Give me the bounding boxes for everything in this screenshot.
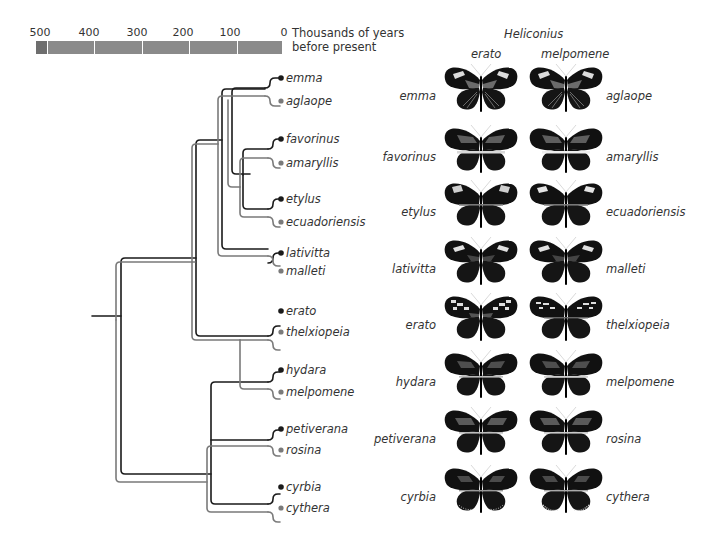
tip-label-aglaope: aglaope bbox=[286, 94, 332, 108]
row-label-left: cyrbia bbox=[356, 490, 436, 504]
row-label-left: emma bbox=[356, 89, 436, 103]
row-label-left: lativitta bbox=[356, 262, 436, 276]
melpomene-lineage bbox=[116, 96, 280, 522]
tip-label-malleti: malleti bbox=[286, 264, 325, 278]
tip-dot bbox=[278, 367, 284, 373]
tip-dot bbox=[278, 219, 283, 224]
row-label-left: erato bbox=[356, 318, 436, 332]
butterfly-erato-cyrbia bbox=[443, 463, 519, 519]
tip-label-cythera: cythera bbox=[286, 501, 330, 515]
row-label-right: rosina bbox=[606, 432, 641, 446]
butterfly-erato-petiverana bbox=[443, 405, 519, 461]
tip-dot bbox=[278, 98, 283, 103]
butterfly-melpomene-amaryllis bbox=[528, 123, 604, 179]
tip-dot bbox=[278, 196, 284, 202]
tip-label-hydara: hydara bbox=[286, 363, 326, 377]
butterfly-melpomene-rosina bbox=[528, 405, 604, 461]
column-header-erato: erato bbox=[471, 47, 501, 61]
tip-dot bbox=[278, 268, 283, 273]
butterfly-melpomene-ecuadoriensis bbox=[528, 178, 604, 234]
row-label-right: aglaope bbox=[606, 89, 652, 103]
butterfly-melpomene-aglaope bbox=[528, 62, 604, 118]
row-label-right: ecuadoriensis bbox=[606, 205, 686, 219]
tip-dot bbox=[278, 484, 284, 490]
row-label-right: cythera bbox=[606, 490, 650, 504]
row-label-right: malleti bbox=[606, 262, 645, 276]
butterfly-erato-hydara bbox=[443, 348, 519, 404]
tip-dot bbox=[278, 389, 283, 394]
butterfly-melpomene-cythera bbox=[528, 463, 604, 519]
butterfly-erato-erato bbox=[443, 291, 519, 347]
row-label-left: etylus bbox=[356, 205, 436, 219]
tip-dot bbox=[278, 329, 283, 334]
tip-dots bbox=[278, 75, 284, 510]
tip-label-rosina: rosina bbox=[286, 443, 321, 457]
erato-lineage bbox=[121, 78, 280, 504]
tip-dot bbox=[278, 505, 283, 510]
tip-dot bbox=[278, 308, 284, 314]
tip-dot bbox=[278, 75, 284, 81]
tip-label-ecuadoriensis: ecuadoriensis bbox=[286, 215, 366, 229]
tip-label-amaryllis: amaryllis bbox=[286, 156, 338, 170]
row-label-right: amaryllis bbox=[606, 150, 658, 164]
tip-dot bbox=[278, 426, 284, 432]
butterfly-erato-etylus bbox=[443, 178, 519, 234]
row-label-right: melpomene bbox=[606, 375, 674, 389]
column-header-melpomene: melpomene bbox=[541, 47, 609, 61]
row-label-right: thelxiopeia bbox=[606, 318, 670, 332]
butterfly-melpomene-malleti bbox=[528, 235, 604, 291]
butterfly-melpomene-thelxiopeia bbox=[528, 291, 604, 347]
tip-dot bbox=[278, 160, 283, 165]
tip-label-favorinus: favorinus bbox=[286, 132, 339, 146]
row-label-left: petiverana bbox=[356, 432, 436, 446]
row-label-left: favorinus bbox=[356, 150, 436, 164]
butterfly-melpomene-melpomene bbox=[528, 348, 604, 404]
tip-label-petiverana: petiverana bbox=[286, 422, 348, 436]
tip-label-cyrbia: cyrbia bbox=[286, 480, 321, 494]
tip-dot bbox=[278, 447, 283, 452]
tip-dot bbox=[278, 136, 284, 142]
butterfly-erato-emma bbox=[443, 62, 519, 118]
tip-label-melpomene: melpomene bbox=[286, 385, 354, 399]
tip-dot bbox=[278, 250, 284, 256]
tip-label-lativitta: lativitta bbox=[286, 246, 330, 260]
genus-heading: Heliconius bbox=[504, 27, 563, 41]
row-label-left: hydara bbox=[356, 375, 436, 389]
tip-label-emma: emma bbox=[286, 71, 323, 85]
butterfly-erato-favorinus bbox=[443, 123, 519, 179]
tip-label-etylus: etylus bbox=[286, 192, 321, 206]
butterfly-erato-lativitta bbox=[443, 235, 519, 291]
tip-label-erato: erato bbox=[286, 304, 316, 318]
tip-label-thelxiopeia: thelxiopeia bbox=[286, 325, 350, 339]
